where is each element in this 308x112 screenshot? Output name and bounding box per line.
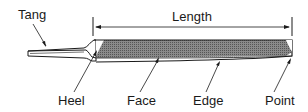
tang-label: Tang — [18, 7, 46, 22]
length-dimension: Length — [93, 9, 292, 36]
file-diagram: Length Tang Heel Face Edge Point — [0, 0, 308, 112]
file-shape — [28, 40, 292, 62]
heel-label: Heel — [58, 93, 85, 108]
edge-label: Edge — [193, 93, 223, 108]
arrow-right-icon — [284, 25, 290, 29]
arrow-left-icon — [95, 25, 101, 29]
tang-shape — [28, 50, 96, 61]
face-label: Face — [127, 93, 156, 108]
point-label: Point — [265, 93, 295, 108]
face-shape — [96, 40, 292, 58]
length-label: Length — [172, 9, 212, 24]
